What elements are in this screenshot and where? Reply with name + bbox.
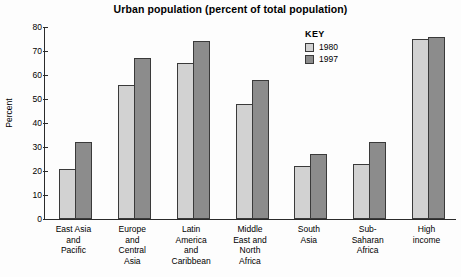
bar-group <box>118 27 151 219</box>
bar-1997 <box>134 58 151 219</box>
y-axis-label: Percent <box>4 83 14 143</box>
y-tick-50: 50 <box>20 94 48 104</box>
y-tick-mark <box>43 219 48 220</box>
y-tick-40: 40 <box>20 118 48 128</box>
x-axis-label: East Asia and Pacific <box>44 224 103 256</box>
bar-1997 <box>193 41 210 219</box>
bar-1980 <box>59 169 76 219</box>
x-axis-line <box>44 219 456 220</box>
y-tick-mark <box>43 123 48 124</box>
bar-1997 <box>310 154 327 219</box>
plot-area: 01020304050607080 <box>44 27 456 219</box>
chart-title: Urban population (percent of total popul… <box>0 3 461 15</box>
bar-1980 <box>118 85 135 219</box>
y-tick-10: 10 <box>20 190 48 200</box>
y-tick-mark <box>43 171 48 172</box>
y-tick-30: 30 <box>20 142 48 152</box>
bar-1980 <box>177 63 194 219</box>
bar-1980 <box>353 164 370 219</box>
y-tick-80: 80 <box>20 22 48 32</box>
bar-1980 <box>294 166 311 219</box>
bar-group <box>177 27 210 219</box>
bar-1997 <box>428 37 445 219</box>
legend-entries: 19801997 <box>305 42 338 64</box>
legend-swatch-icon <box>305 43 314 52</box>
x-axis-label: Sub- Saharan Africa <box>338 224 397 256</box>
bar-group <box>412 27 445 219</box>
bar-1980 <box>412 39 429 219</box>
x-axis-label: Europe and Central Asia <box>103 224 162 266</box>
y-tick-mark <box>43 51 48 52</box>
bar-group <box>353 27 386 219</box>
x-axis-label: High income <box>397 224 456 245</box>
legend-swatch-icon <box>305 55 314 64</box>
y-tick-label: 30 <box>20 142 42 152</box>
y-tick-label: 40 <box>20 118 42 128</box>
y-tick-mark <box>43 75 48 76</box>
y-tick-60: 60 <box>20 70 48 80</box>
y-tick-mark <box>43 27 48 28</box>
y-tick-label: 20 <box>20 166 42 176</box>
legend-item-1997[interactable]: 1997 <box>305 54 338 64</box>
legend-item-1980[interactable]: 1980 <box>305 42 338 52</box>
y-tick-label: 0 <box>20 214 42 224</box>
legend: KEY 19801997 <box>305 29 338 66</box>
y-tick-label: 10 <box>20 190 42 200</box>
y-tick-mark <box>43 195 48 196</box>
y-tick-70: 70 <box>20 46 48 56</box>
x-axis-label: Latin America and Caribbean <box>162 224 221 266</box>
bar-1997 <box>252 80 269 219</box>
bar-1997 <box>75 142 92 219</box>
x-axis-label: South Asia <box>279 224 338 245</box>
y-tick-20: 20 <box>20 166 48 176</box>
bar-group <box>236 27 269 219</box>
bar-group <box>59 27 92 219</box>
legend-title: KEY <box>305 29 338 39</box>
y-tick-label: 50 <box>20 94 42 104</box>
y-tick-label: 60 <box>20 70 42 80</box>
y-tick-mark <box>43 147 48 148</box>
legend-label: 1980 <box>319 42 338 52</box>
bar-1997 <box>369 142 386 219</box>
x-axis-label: Middle East and North Africa <box>221 224 280 266</box>
y-tick-0: 0 <box>20 214 48 224</box>
y-tick-label: 70 <box>20 46 42 56</box>
y-tick-label: 80 <box>20 22 42 32</box>
bar-1980 <box>236 104 253 219</box>
legend-label: 1997 <box>319 54 338 64</box>
urban-population-bar-chart: Urban population (percent of total popul… <box>0 0 461 277</box>
y-tick-mark <box>43 99 48 100</box>
